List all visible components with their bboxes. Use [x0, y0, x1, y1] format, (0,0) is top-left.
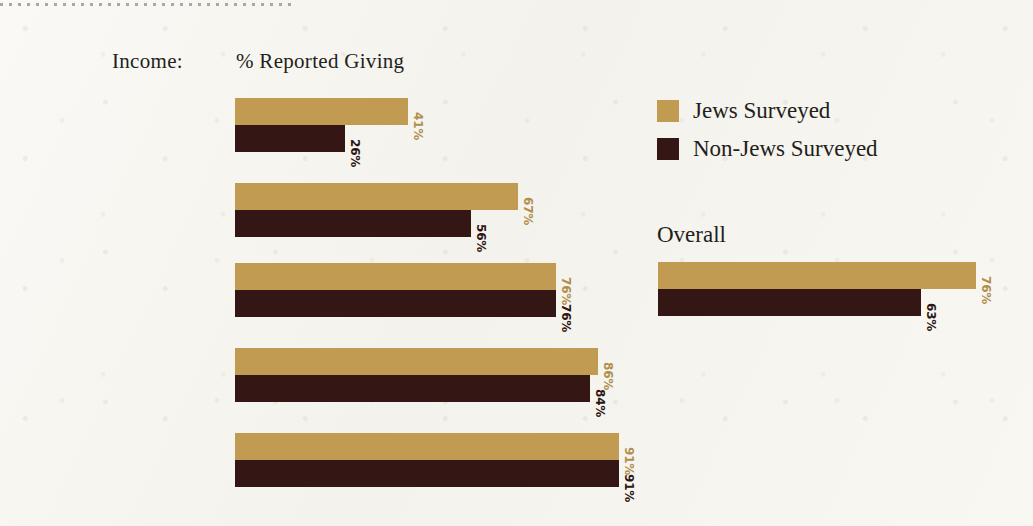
bar-value-jews: 41% — [411, 112, 425, 140]
bar-pair: 76% 76% — [235, 263, 556, 317]
legend-item-nonjews-surveyed[interactable]: Non-Jews Surveyed — [657, 130, 878, 168]
percent-reported-giving-header: % Reported Giving — [236, 49, 404, 74]
legend-label-nonjews: Non-Jews Surveyed — [693, 136, 878, 162]
overall-section-title: Overall — [657, 222, 726, 248]
legend-label-jews: Jews Surveyed — [693, 98, 830, 124]
chart-legend: Jews Surveyed Non-Jews Surveyed — [657, 92, 878, 168]
bar-nonjews-surveyed[interactable]: 84% — [235, 375, 590, 402]
overall-bar-value-nonjews: 63% — [924, 303, 938, 331]
bar-nonjews-surveyed[interactable]: 76% — [235, 290, 556, 317]
bar-value-nonjews: 84% — [593, 389, 607, 417]
bar-nonjews-surveyed[interactable]: 26% — [235, 125, 345, 152]
overall-bar-value-jews: 76% — [979, 276, 993, 304]
bar-pair: 91% 91% — [235, 433, 619, 487]
bar-pair: 86% 84% — [235, 348, 598, 402]
overall-bar-pair: 76% 63% — [658, 262, 976, 316]
bar-value-jews: 91% — [622, 447, 636, 475]
legend-swatch-gold-icon — [657, 100, 679, 122]
income-column-header: Income: — [112, 49, 183, 74]
giving-by-income-chart: Income: % Reported Giving Less than $20,… — [0, 0, 1033, 526]
bar-jews-surveyed[interactable]: 91% — [235, 433, 619, 460]
legend-item-jews-surveyed[interactable]: Jews Surveyed — [657, 92, 878, 130]
bar-nonjews-surveyed[interactable]: 56% — [235, 210, 471, 237]
bar-jews-surveyed[interactable]: 86% — [235, 348, 598, 375]
bar-value-jews: 76% — [559, 277, 573, 305]
bar-value-nonjews: 76% — [559, 304, 573, 332]
bar-nonjews-surveyed[interactable]: 91% — [235, 460, 619, 487]
bar-jews-surveyed[interactable]: 41% — [235, 98, 408, 125]
overall-bar-jews-surveyed[interactable]: 76% — [658, 262, 976, 289]
overall-bar-nonjews-surveyed[interactable]: 63% — [658, 289, 921, 316]
bar-jews-surveyed[interactable]: 76% — [235, 263, 556, 290]
bar-value-nonjews: 91% — [622, 474, 636, 502]
bar-value-jews: 86% — [601, 362, 615, 390]
bar-value-jews: 67% — [521, 197, 535, 225]
bar-value-nonjews: 56% — [474, 224, 488, 252]
bar-jews-surveyed[interactable]: 67% — [235, 183, 518, 210]
legend-swatch-dark-icon — [657, 138, 679, 160]
bar-pair: 41% 26% — [235, 98, 408, 152]
bar-pair: 67% 56% — [235, 183, 518, 237]
bar-value-nonjews: 26% — [348, 139, 362, 167]
